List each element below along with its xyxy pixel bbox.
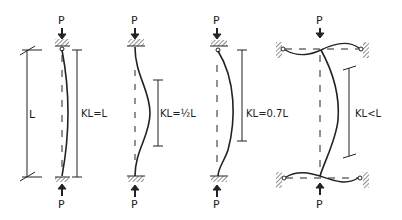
column-fixed-fixed [127, 28, 163, 197]
kl-label-fixed-pinned: KL=0.7L [246, 108, 288, 119]
load-label-top-4: P [316, 14, 323, 27]
load-label-bottom-3: P [213, 198, 220, 211]
load-label-top-2: P [131, 14, 138, 27]
load-label-top-1: P [58, 14, 65, 27]
kl-label-frame: KL<L [355, 108, 381, 119]
load-label-bottom-4: P [316, 198, 323, 211]
load-label-bottom-2: P [131, 198, 138, 211]
load-label-bottom-1: P [58, 198, 65, 211]
kl-label-pinned-pinned: KL=L [81, 108, 107, 119]
load-label-top-3: P [213, 14, 220, 27]
length-label: L [29, 108, 35, 121]
column-fixed-pinned [210, 28, 247, 197]
column-diagram [0, 0, 402, 220]
kl-label-fixed-fixed: KL=½L [160, 108, 196, 119]
